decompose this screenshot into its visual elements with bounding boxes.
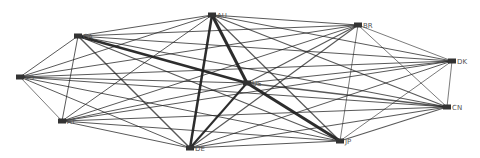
node-label: DE xyxy=(195,145,205,153)
node-label: AT xyxy=(67,118,76,126)
node-label: BR xyxy=(363,22,373,30)
node-marker[interactable] xyxy=(443,105,451,110)
node-label: CA xyxy=(83,33,93,41)
node-marker[interactable] xyxy=(58,119,66,124)
node-label: JP xyxy=(344,138,351,146)
node-at[interactable]: AT xyxy=(58,118,76,126)
edge-es-us xyxy=(20,77,247,83)
node-dk[interactable]: DK xyxy=(448,58,467,66)
node-marker[interactable] xyxy=(208,13,216,18)
node-es[interactable]: ES xyxy=(16,74,34,82)
edge-ca-es xyxy=(20,36,78,77)
node-br[interactable]: BR xyxy=(354,22,373,30)
edge-br-cn xyxy=(358,25,447,107)
node-label: AU xyxy=(217,12,227,20)
node-jp[interactable]: JP xyxy=(336,138,351,146)
edge-au-ca xyxy=(78,15,212,36)
node-us[interactable]: US xyxy=(243,80,262,88)
edge-au-us xyxy=(212,15,247,83)
node-marker[interactable] xyxy=(336,139,344,144)
node-label: ES xyxy=(25,74,34,82)
edge-es-at xyxy=(20,77,62,121)
node-marker[interactable] xyxy=(16,75,24,80)
node-marker[interactable] xyxy=(243,81,251,86)
edge-dk-cn xyxy=(447,61,452,107)
edge-cn-jp xyxy=(340,107,447,141)
node-de[interactable]: DE xyxy=(186,145,205,153)
node-label: US xyxy=(252,80,262,88)
node-label: CN xyxy=(452,104,462,112)
edge-us-jp xyxy=(247,83,340,141)
node-ca[interactable]: CA xyxy=(74,33,93,41)
edge-ca-cn xyxy=(78,36,447,107)
node-label: DK xyxy=(457,58,467,66)
node-marker[interactable] xyxy=(354,23,362,28)
edge-ca-us xyxy=(78,36,247,83)
edge-at-de xyxy=(62,121,190,148)
node-marker[interactable] xyxy=(448,59,456,64)
network-graph: AUCAESATDEUSBRDKCNJP xyxy=(0,0,480,158)
node-marker[interactable] xyxy=(186,146,194,151)
node-marker[interactable] xyxy=(74,34,82,39)
edge-br-jp xyxy=(340,25,358,141)
node-cn[interactable]: CN xyxy=(443,104,462,112)
